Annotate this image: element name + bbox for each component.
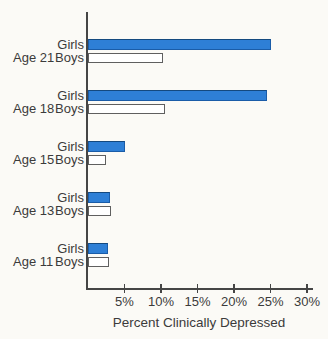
age-label: Age 18 — [13, 103, 59, 114]
boys-bar — [88, 53, 163, 63]
girls-row-label: Girls — [34, 192, 84, 203]
x-tick-label: 10% — [141, 294, 181, 309]
x-tick-label: 30% — [287, 294, 327, 309]
boys-bar — [88, 257, 109, 267]
x-tick-mark — [270, 284, 272, 293]
x-tick-label: 20% — [214, 294, 254, 309]
age-label: Age 13 — [13, 205, 59, 216]
age-label: Age 15 — [13, 154, 59, 165]
x-tick-label: 5% — [105, 294, 145, 309]
girls-bar — [88, 243, 108, 254]
girls-row-label: Girls — [34, 243, 84, 254]
age-label: Age 11 — [13, 256, 59, 267]
x-tick-mark — [160, 284, 162, 293]
clinical-depression-bar-chart: GirlsBoysAge 21GirlsBoysAge 18GirlsBoysA… — [0, 0, 328, 339]
girls-row-label: Girls — [34, 90, 84, 101]
x-tick-mark — [306, 284, 308, 293]
x-tick-mark — [197, 284, 199, 293]
x-tick-label: 15% — [178, 294, 218, 309]
girls-bar — [88, 192, 110, 203]
boys-bar — [88, 104, 165, 114]
girls-row-label: Girls — [34, 141, 84, 152]
girls-bar — [88, 90, 267, 101]
girls-row-label: Girls — [34, 39, 84, 50]
x-axis-line — [86, 288, 313, 290]
age-label: Age 21 — [13, 52, 59, 63]
x-tick-mark — [124, 284, 126, 293]
x-tick-mark — [233, 284, 235, 293]
x-tick-label: 25% — [251, 294, 291, 309]
x-axis-title: Percent Clinically Depressed — [88, 315, 310, 330]
boys-bar — [88, 206, 111, 216]
girls-bar — [88, 141, 125, 152]
boys-bar — [88, 155, 106, 165]
girls-bar — [88, 39, 271, 50]
